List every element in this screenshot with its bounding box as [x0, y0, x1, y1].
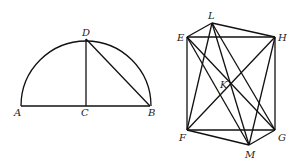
- label-D: D: [81, 27, 90, 38]
- figure-semicircle: A C B D: [13, 27, 155, 118]
- label-B: B: [147, 107, 155, 118]
- label-A: A: [13, 107, 21, 118]
- segment-LE: [187, 23, 212, 37]
- label-C: C: [81, 107, 89, 118]
- segment-MF: [187, 130, 249, 145]
- label-M: M: [244, 149, 256, 160]
- label-K: K: [219, 79, 228, 90]
- segment-LM: [212, 23, 249, 145]
- segment-LH: [212, 23, 275, 37]
- label-E: E: [176, 32, 185, 43]
- segment-MH: [249, 37, 275, 145]
- label-F: F: [178, 132, 187, 143]
- segment-MG: [249, 130, 275, 145]
- geometry-diagram: A C B D L E H K F G M: [0, 0, 300, 165]
- figure-prism: L E H K F G M: [176, 10, 287, 160]
- segment-LF: [187, 23, 212, 130]
- label-H: H: [277, 32, 287, 43]
- label-G: G: [278, 132, 286, 143]
- label-L: L: [207, 10, 215, 21]
